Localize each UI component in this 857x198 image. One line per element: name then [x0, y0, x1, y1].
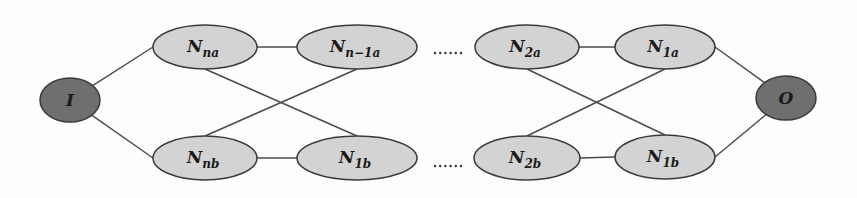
- node-I: I: [40, 78, 100, 122]
- node-label: O: [779, 88, 794, 108]
- edge-N1a-O: [715, 47, 765, 83]
- ellipsis-dot: [460, 52, 462, 54]
- ellipsis-layer: [434, 52, 462, 167]
- ellipsis-dot: [444, 52, 446, 54]
- node-N2a: N2a: [475, 25, 579, 69]
- ellipsis-dot: [434, 52, 436, 54]
- ellipsis-dot: [439, 165, 441, 167]
- edge-N1b_right-O: [715, 114, 766, 157]
- node-label: I: [65, 90, 75, 110]
- node-N1a: N1a: [615, 25, 715, 69]
- ellipsis-dot: [439, 52, 441, 54]
- nodes-layer: INnaNnbNn−1aN1bN2aN2bN1aN1bO: [40, 25, 816, 180]
- ellipsis-dot: [460, 165, 462, 167]
- node-Nnb: Nnb: [153, 136, 257, 180]
- edge-I-Nnb: [92, 115, 153, 158]
- node-Nn-1a: Nn−1a: [297, 25, 417, 69]
- ellipsis-dot: [449, 165, 451, 167]
- node-O: O: [756, 76, 816, 120]
- ellipsis-dot: [455, 165, 457, 167]
- node-N1b_right: N1b: [615, 135, 715, 179]
- network-diagram: INnaNnbNn−1aN1bN2aN2bN1aN1bO: [0, 0, 857, 198]
- ellipsis-dot: [449, 52, 451, 54]
- diagram-svg: INnaNnbNn−1aN1bN2aN2bN1aN1bO: [0, 0, 857, 198]
- ellipsis-dot: [434, 165, 436, 167]
- node-Nna: Nna: [153, 25, 257, 69]
- node-N1b_left: N1b: [297, 136, 417, 180]
- edge-I-Nna: [93, 47, 153, 86]
- ellipsis-dot: [444, 165, 446, 167]
- ellipsis-dot: [455, 52, 457, 54]
- node-N2b: N2b: [474, 136, 580, 180]
- edge-N2b-N1b_right: [580, 157, 615, 158]
